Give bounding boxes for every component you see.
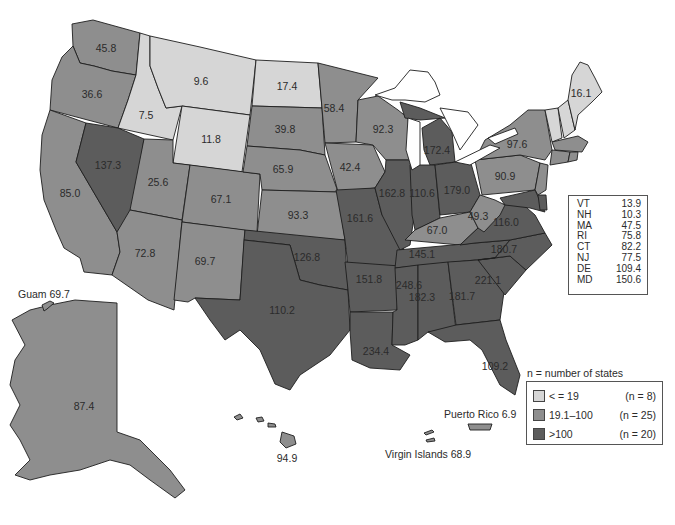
legend-swatch-mid: [533, 409, 545, 421]
label-ut: 25.6: [148, 176, 169, 188]
state-ri[interactable]: [568, 152, 578, 162]
label-oh: 179.0: [444, 184, 470, 196]
label-sc: 221.1: [475, 274, 501, 286]
label-tn: 145.1: [409, 248, 435, 260]
label-pa: 90.9: [495, 170, 516, 182]
state-az[interactable]: [112, 210, 182, 310]
label-wa: 45.8: [96, 42, 117, 54]
label-co: 67.1: [211, 193, 232, 205]
label-wy: 11.8: [201, 133, 221, 145]
label-mo: 161.6: [347, 212, 373, 224]
legend-swatch-low: [533, 390, 545, 402]
label-ny: 97.6: [507, 138, 528, 150]
state-hi-islands[interactable]: [234, 414, 276, 427]
label-hi: 94.9: [277, 452, 298, 464]
small-states-table: VT13.9 NH10.3 MA47.5 RI75.8 CT82.2 NJ77.…: [568, 195, 648, 295]
label-fl: 109.2: [482, 360, 508, 372]
label-wv: 49.3: [468, 210, 489, 222]
label-ca: 85.0: [60, 187, 81, 199]
legend-item-mid: 19.1–100 (n = 25): [533, 405, 658, 424]
label-guam: Guam 69.7: [18, 288, 70, 300]
legend-title: n = number of states: [527, 367, 623, 379]
state-ct[interactable]: [550, 150, 570, 165]
label-ia: 42.4: [340, 161, 361, 173]
label-ms: 248.6: [396, 279, 422, 291]
label-al: 182.3: [409, 291, 435, 303]
state-hi[interactable]: [280, 432, 296, 448]
label-ar: 151.8: [356, 273, 382, 285]
label-mt: 9.6: [194, 75, 209, 87]
label-puerto-rico: Puerto Rico 6.9: [444, 408, 517, 420]
label-az: 72.8: [135, 247, 156, 259]
state-de[interactable]: [538, 195, 547, 210]
territory-puerto-rico-shape[interactable]: [468, 424, 492, 430]
label-ak: 87.4: [74, 400, 95, 412]
label-nv: 137.3: [95, 159, 121, 171]
label-ky: 67.0: [427, 224, 448, 236]
legend-range-mid: 19.1–100: [549, 409, 613, 421]
small-state-row: MD150.6: [577, 275, 641, 286]
label-sd: 39.8: [275, 123, 296, 135]
label-wi: 92.3: [373, 123, 394, 135]
label-nc: 180.7: [491, 243, 517, 255]
label-mn: 58.4: [324, 102, 345, 114]
label-mi: 172.4: [424, 144, 450, 156]
label-la: 234.4: [363, 345, 389, 357]
lake-superior: [375, 70, 440, 102]
legend-item-low: < = 19 (n = 8): [533, 386, 658, 405]
state-ak[interactable]: [10, 300, 185, 498]
legend-count-high: (n = 20): [620, 428, 658, 440]
legend-count-mid: (n = 25): [620, 409, 658, 421]
label-virgin-islands: Virgin Islands 68.9: [385, 448, 471, 460]
label-or: 36.6: [82, 88, 103, 100]
legend-range-low: < = 19: [549, 390, 613, 402]
small-state-row: NH10.3: [577, 210, 641, 221]
legend-swatch-high: [533, 428, 545, 440]
label-in: 110.6: [409, 187, 435, 199]
label-nm: 69.7: [195, 255, 216, 267]
territory-virgin-islands-shape[interactable]: [424, 430, 435, 442]
label-ok: 126.8: [294, 251, 320, 263]
label-ne: 65.9: [273, 163, 294, 175]
small-state-row: DE109.4: [577, 264, 641, 275]
legend: < = 19 (n = 8) 19.1–100 (n = 25) >100 (n…: [526, 381, 663, 445]
legend-item-high: >100 (n = 20): [533, 424, 658, 443]
label-me: 16.1: [571, 87, 592, 99]
label-tx: 110.2: [269, 304, 295, 316]
label-va: 116.0: [493, 216, 519, 228]
label-il: 162.8: [379, 187, 405, 199]
legend-range-high: >100: [549, 428, 613, 440]
label-ks: 93.3: [288, 209, 309, 221]
state-fl[interactable]: [428, 320, 520, 395]
label-nd: 17.4: [277, 80, 298, 92]
legend-count-low: (n = 8): [625, 390, 658, 402]
state-ar[interactable]: [345, 262, 400, 312]
label-ga: 181.7: [449, 290, 475, 302]
label-id: 7.5: [139, 109, 154, 121]
